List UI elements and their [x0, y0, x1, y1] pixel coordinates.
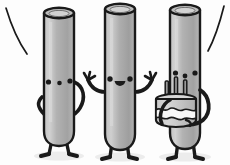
illustration-canvas: Three cylinder characters celebrating wi…	[0, 0, 230, 165]
character-middle-eye-left	[107, 76, 112, 81]
character-middle-eye-right	[127, 76, 132, 81]
character-left-cap-inner	[49, 10, 69, 16]
character-right-mouth	[183, 74, 188, 79]
character-left-eye-right	[67, 78, 72, 83]
character-right-cap-inner	[175, 7, 195, 13]
character-right-eye-right	[192, 70, 197, 75]
character-middle-cap-inner	[110, 6, 130, 12]
character-left-eye-left	[46, 79, 51, 84]
character-middle-highlight	[110, 18, 113, 126]
cartoon-scene-svg	[0, 0, 230, 165]
character-left-highlight	[49, 22, 52, 122]
character-left-mouth	[57, 81, 62, 86]
ground-shadows	[34, 152, 211, 162]
character-right-eye-left	[173, 70, 178, 75]
